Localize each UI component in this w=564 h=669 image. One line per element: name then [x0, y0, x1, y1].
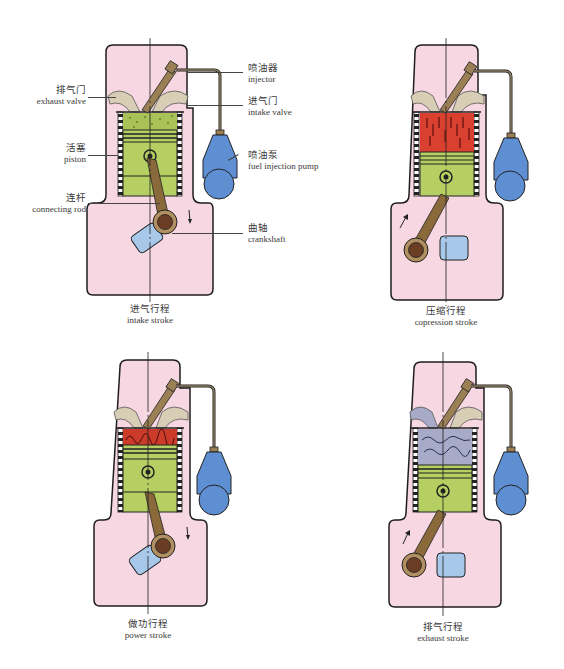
caption-intake-stroke: 进气行程 intake stroke [127, 304, 173, 326]
caption-compression-stroke: 压缩行程 copression stroke [415, 306, 478, 328]
caption-zh: 压缩行程 [415, 306, 478, 317]
leader-intake-valve [186, 105, 243, 106]
caption-en: copression stroke [415, 317, 478, 328]
caption-en: intake stroke [127, 315, 173, 326]
caption-zh: 做功行程 [125, 619, 172, 630]
label-zh: 活塞 [64, 143, 86, 154]
label-zh: 喷油泵 [248, 150, 318, 161]
caption-zh: 排气行程 [417, 622, 469, 633]
label-en: piston [64, 154, 86, 165]
label-en: intake valve [248, 107, 292, 118]
panel-intake-stroke [87, 38, 237, 302]
caption-en: exhaust stroke [417, 633, 469, 644]
label-intake-valve: 进气门 intake valve [248, 96, 292, 118]
label-zh: 排气门 [37, 85, 86, 96]
leader-piston [88, 155, 118, 156]
caption-en: power stroke [125, 630, 172, 641]
label-en: fuel injection pump [248, 161, 318, 172]
label-piston: 活塞 piston [64, 143, 86, 165]
label-zh: 喷油器 [248, 63, 278, 74]
caption-power-stroke: 做功行程 power stroke [125, 619, 172, 641]
label-exhaust-valve: 排气门 exhaust valve [37, 85, 86, 107]
leader-exhaust-valve [88, 97, 116, 98]
label-connecting-rod: 连杆 connecting rod [32, 193, 86, 215]
label-zh: 进气门 [248, 96, 292, 107]
panel-exhaust-stroke [389, 352, 528, 616]
leader-injector [187, 72, 243, 73]
label-injector: 喷油器 injector [248, 63, 278, 85]
label-en: connecting rod [32, 204, 86, 215]
label-en: exhaust valve [37, 96, 86, 107]
label-crankshaft: 曲轴 crankshaft [248, 223, 285, 245]
label-en: crankshaft [248, 234, 285, 245]
panel-compression-stroke [391, 38, 528, 306]
label-fuel-injection-pump: 喷油泵 fuel injection pump [248, 150, 318, 172]
label-zh: 曲轴 [248, 223, 285, 234]
label-en: injector [248, 74, 278, 85]
caption-exhaust-stroke: 排气行程 exhaust stroke [417, 622, 469, 644]
caption-zh: 进气行程 [127, 304, 173, 315]
label-zh: 连杆 [32, 193, 86, 204]
leader-crankshaft [172, 233, 243, 234]
panel-power-stroke [94, 352, 231, 614]
leader-connecting-rod [88, 203, 160, 204]
